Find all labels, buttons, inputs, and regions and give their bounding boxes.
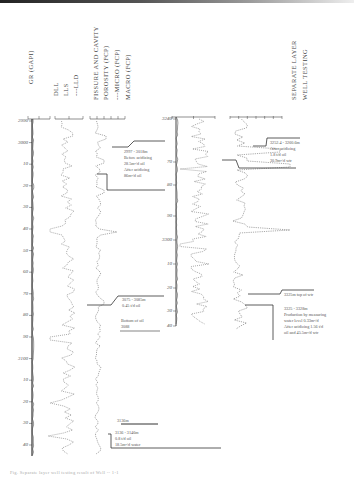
well-log-plot (0, 0, 354, 483)
test5-bracket-line (245, 305, 273, 340)
test3-water: 18.5m³/d water (115, 442, 140, 448)
test4-water: 30.9m³/d wtr (270, 158, 300, 164)
test1-top-line (112, 141, 165, 147)
resistivity-curve-upper (48, 121, 75, 454)
bottom-of-oil-depth: 3088 (121, 324, 144, 330)
test4-note: 3252.4 - 3260.6m After acidizing 1.8 t/d… (270, 140, 300, 164)
test2-value: 0.45 t/d oil (122, 303, 146, 309)
test1-after-value: 86m³/d oil (124, 173, 152, 179)
test3-top-note: 3136m (117, 418, 129, 424)
test3-note: 3136 - 3146m 0.8 t/d oil 18.5m³/d water (115, 430, 140, 448)
top-of-water-label: 3325m top of wtr (284, 292, 313, 298)
test3-top-depth: 3136m (117, 418, 129, 424)
test5-top-note: 3325m top of wtr (284, 292, 313, 298)
micro-fcp-curve-upper (95, 121, 117, 454)
test2-note: 3075 - 3085m 0.45 t/d oil (122, 297, 146, 309)
test1-note: 2997 - 3018m Before acidizing 28.5m³/d o… (124, 149, 152, 179)
test5-result: oil and 45.5m³/d wtr (284, 330, 326, 336)
test2-bottom-note: Bottom of oil 3088 (121, 318, 144, 330)
figure-caption: Fig. Separate layer well testing result … (10, 470, 119, 475)
test5-note: 3325 - 3328m Production by measuring wat… (284, 306, 326, 336)
resistivity-curve-lower (180, 119, 209, 324)
